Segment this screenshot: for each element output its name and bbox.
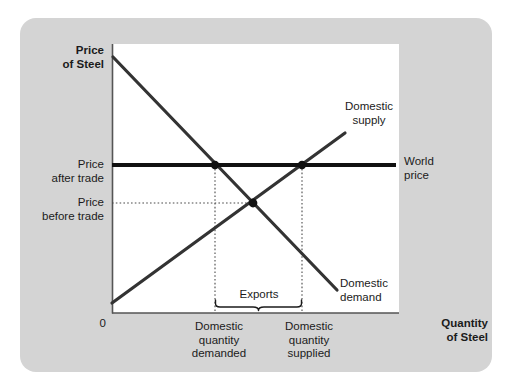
exports-bracket-label: Exports [222, 288, 296, 302]
origin-label: 0 [92, 317, 106, 331]
domestic-supply-label: Domestic supply [326, 100, 412, 127]
x-axis-label: Quantity of Steel [396, 317, 488, 344]
supply-at-world-price-point [298, 161, 306, 169]
demand-at-world-price-point [211, 161, 219, 169]
domestic-demand-curve [113, 57, 337, 290]
y-axis-label: Price of Steel [18, 44, 104, 71]
figure-screenshot: Price of Steel Price after trade Price b… [0, 0, 510, 390]
price-before-trade-label: Price before trade [18, 196, 104, 223]
domestic-quantity-supplied-label: Domestic quantity supplied [268, 320, 350, 361]
exports-brace [216, 300, 302, 311]
world-price-label: World price [404, 155, 464, 182]
price-after-trade-label: Price after trade [18, 158, 104, 185]
domestic-quantity-demanded-label: Domestic quantity demanded [178, 320, 260, 361]
domestic-demand-label: Domestic demand [340, 277, 424, 304]
equilibrium-point [249, 199, 258, 208]
domestic-supply-curve [112, 133, 345, 303]
